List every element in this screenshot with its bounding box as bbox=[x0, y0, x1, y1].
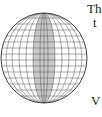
globe-icon bbox=[0, 12, 90, 104]
text-fragment: The bbox=[87, 2, 102, 15]
text-fragment: t bbox=[93, 16, 97, 29]
sphere-lune-figure bbox=[0, 12, 90, 104]
text-fragment: V bbox=[91, 94, 100, 107]
